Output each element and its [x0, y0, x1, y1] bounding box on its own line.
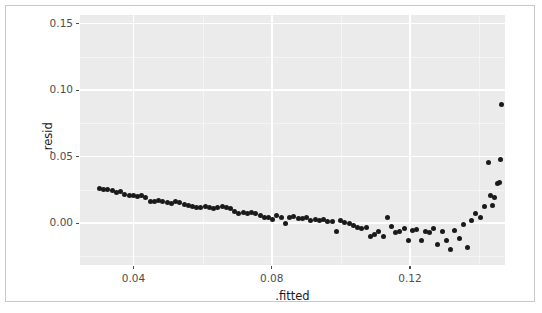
scatter-point [389, 224, 394, 229]
y-tick-label: 0.15 [50, 17, 73, 29]
scatter-point [364, 225, 369, 230]
scatter-point [497, 180, 502, 185]
x-tick-mark [409, 266, 410, 269]
x-tick-mark [133, 266, 134, 269]
scatter-point [402, 226, 407, 231]
x-axis-label: .fitted [0, 289, 505, 303]
gridline-minor-vertical [341, 15, 342, 265]
gridline-minor-horizontal [80, 57, 505, 58]
scatter-point [444, 238, 449, 243]
gridline-minor-horizontal [80, 190, 505, 191]
scatter-point [376, 229, 381, 234]
y-tick-mark [76, 156, 79, 157]
x-tick-label: 0.12 [380, 272, 440, 284]
y-tick-label: 0.10 [50, 83, 73, 95]
y-tick-mark [76, 223, 79, 224]
scatter-point [435, 242, 440, 247]
scatter-point [452, 228, 457, 233]
scatter-point [498, 157, 503, 162]
scatter-point [414, 227, 419, 232]
scatter-point [478, 215, 483, 220]
gridline-major-horizontal [80, 156, 505, 158]
gridline-major-horizontal [80, 222, 505, 224]
scatter-point [385, 215, 390, 220]
scatter-point [406, 238, 411, 243]
scatter-point [283, 221, 288, 226]
y-tick-mark [76, 90, 79, 91]
scatter-point [461, 222, 466, 227]
scatter-point [448, 247, 453, 252]
x-tick-mark [271, 266, 272, 269]
scatter-point [482, 204, 487, 209]
plot-canvas: 0.000.050.100.150.040.080.12 .resid .fit… [0, 0, 542, 313]
scatter-point [381, 234, 386, 239]
gridline-minor-horizontal [80, 123, 505, 124]
gridline-major-vertical [271, 15, 273, 265]
scatter-point [457, 236, 462, 241]
scatter-point [499, 102, 504, 107]
scatter-point [431, 226, 436, 231]
scatter-point [490, 203, 495, 208]
gridline-minor-vertical [479, 15, 480, 265]
scatter-point [440, 229, 445, 234]
gridline-major-horizontal [80, 23, 505, 25]
scatter-point [492, 195, 497, 200]
scatter-point [419, 238, 424, 243]
gridline-minor-horizontal [80, 256, 505, 257]
y-tick-mark [76, 23, 79, 24]
chart-panel [80, 15, 505, 265]
scatter-point [279, 215, 284, 220]
scatter-point [465, 245, 470, 250]
gridline-major-vertical [133, 15, 135, 265]
scatter-point [427, 230, 432, 235]
gridline-major-horizontal [80, 89, 505, 91]
scatter-point [334, 229, 339, 234]
x-tick-label: 0.04 [104, 272, 164, 284]
y-axis-label: .resid [41, 108, 55, 168]
gridline-minor-vertical [203, 15, 204, 265]
scatter-point [486, 160, 491, 165]
x-tick-label: 0.08 [242, 272, 302, 284]
chart-plot-area: 0.000.050.100.150.040.080.12 .resid .fit… [0, 0, 542, 313]
y-tick-label: 0.00 [50, 216, 73, 228]
